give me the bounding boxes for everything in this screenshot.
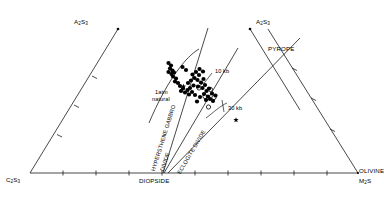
data-point-star bbox=[233, 117, 238, 122]
label-diopside: DIOPSIDE bbox=[139, 177, 169, 184]
right-apex-dot bbox=[249, 28, 252, 31]
data-point-filled bbox=[194, 70, 198, 74]
data-point-filled bbox=[184, 68, 188, 72]
data-point-filled bbox=[197, 73, 201, 77]
eclogite-divide-line bbox=[164, 48, 238, 173]
phase-diagram-figure: A2S3 A2S3 C2S3 OLIVINE M2S DIOPSIDE PYRO… bbox=[0, 0, 384, 207]
divide-lines bbox=[163, 28, 238, 173]
label-natural: natural bbox=[152, 96, 170, 102]
apex-label-m2s: M2S bbox=[359, 177, 371, 185]
label-pyrope: PYROPE bbox=[268, 45, 294, 52]
data-point-filled bbox=[188, 86, 192, 90]
data-point-filled bbox=[193, 93, 197, 97]
data-point-filled bbox=[190, 72, 194, 76]
apex-label-c2s3: C2S3 bbox=[6, 176, 20, 184]
data-point-filled bbox=[180, 65, 184, 69]
data-point-filled bbox=[203, 83, 207, 87]
label-1atm: 1atm bbox=[155, 89, 168, 95]
apex-label-right-a2s3: A2S3 bbox=[256, 18, 270, 26]
pyrope-line-from-apex bbox=[250, 29, 300, 110]
data-point-filled bbox=[179, 89, 183, 93]
data-point-filled bbox=[189, 78, 193, 82]
left-edge-ticks bbox=[57, 76, 97, 137]
data-point-filled bbox=[172, 70, 176, 74]
left-apex-dot bbox=[117, 28, 120, 31]
data-point-filled bbox=[195, 99, 199, 103]
data-point-filled bbox=[198, 95, 202, 99]
data-point-filled bbox=[202, 92, 206, 96]
data-point-filled bbox=[197, 67, 201, 71]
apex-label-left-a2s3: A2S3 bbox=[74, 18, 88, 26]
data-point-filled bbox=[199, 80, 203, 84]
data-point-open bbox=[206, 105, 210, 109]
data-point-filled bbox=[201, 77, 205, 81]
data-point-filled bbox=[201, 69, 205, 73]
label-pressure-30kb: 30 kb bbox=[228, 105, 242, 111]
data-point-filled bbox=[195, 78, 199, 82]
left-triangle bbox=[30, 29, 118, 173]
data-point-filled bbox=[191, 83, 195, 87]
label-pressure-10kb: 10 kb bbox=[215, 68, 229, 74]
left-triangle-left-edge bbox=[30, 29, 118, 173]
diagram-canvas bbox=[0, 0, 384, 207]
label-olivine: OLIVINE bbox=[359, 167, 384, 174]
data-point-filled bbox=[190, 90, 194, 94]
